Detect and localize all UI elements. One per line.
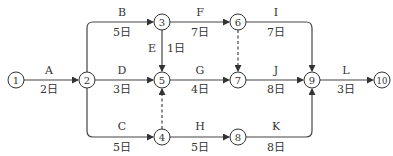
label-l: L [342, 64, 350, 77]
duration-h: 5日 [191, 141, 209, 154]
node-5-label: 5 [159, 75, 165, 86]
label-k: K [272, 120, 281, 133]
node-8-label: 8 [235, 132, 241, 143]
duration-k: 8日 [267, 141, 285, 154]
duration-l: 3日 [337, 83, 355, 96]
node-7-label: 7 [235, 75, 241, 86]
node-8: 8 [230, 129, 246, 145]
node-4: 4 [154, 129, 170, 145]
node-3-label: 3 [159, 17, 165, 28]
label-b: B [118, 6, 126, 19]
label-c: C [118, 120, 126, 133]
label-d: D [118, 64, 127, 77]
label-g: G [196, 64, 205, 77]
label-a: A [44, 64, 54, 77]
node-2: 2 [79, 72, 95, 88]
duration-a: 2日 [40, 83, 58, 96]
node-5: 5 [154, 72, 170, 88]
node-10-label: 10 [377, 76, 388, 86]
duration-e: 1日 [167, 42, 185, 55]
duration-i: 7日 [267, 26, 285, 39]
node-4-label: 4 [159, 132, 165, 143]
label-f: F [196, 6, 204, 19]
duration-f: 7日 [191, 26, 209, 39]
node-6-label: 6 [235, 17, 241, 28]
node-2-label: 2 [84, 75, 90, 86]
node-9: 9 [304, 72, 320, 88]
node-10: 10 [374, 72, 390, 88]
network-diagram: A 2日 B 5日 C 5日 D 3日 E 1日 F 7日 G 4日 H 5日 … [0, 0, 393, 156]
node-3: 3 [154, 14, 170, 30]
duration-c: 5日 [113, 141, 131, 154]
duration-b: 5日 [113, 26, 131, 39]
node-1: 1 [8, 72, 24, 88]
label-h: H [195, 120, 205, 133]
duration-g: 4日 [191, 83, 209, 96]
duration-j: 8日 [267, 83, 285, 96]
node-7: 7 [230, 72, 246, 88]
node-1-label: 1 [13, 75, 19, 86]
label-j: J [273, 64, 278, 77]
label-i: I [274, 6, 278, 19]
node-6: 6 [230, 14, 246, 30]
label-e: E [148, 42, 156, 55]
duration-d: 3日 [113, 83, 131, 96]
node-9-label: 9 [309, 75, 315, 86]
